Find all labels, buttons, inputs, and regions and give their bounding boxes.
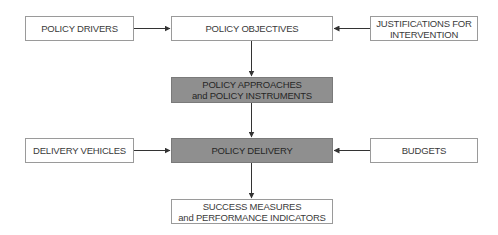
node-label: POLICY APPROACHES and POLICY INSTRUMENTS [192,79,312,101]
node-policy-approaches: POLICY APPROACHES and POLICY INSTRUMENTS [171,77,333,103]
node-justifications-for-intervention: JUSTIFICATIONS FOR INTERVENTION [370,16,478,41]
node-policy-drivers: POLICY DRIVERS [25,16,134,41]
node-policy-objectives: POLICY OBJECTIVES [171,16,333,41]
node-label: POLICY DRIVERS [41,23,118,34]
node-label: POLICY DELIVERY [211,145,292,156]
node-label: BUDGETS [402,145,447,156]
node-label: SUCCESS MEASURES and PERFORMANCE INDICAT… [178,201,326,223]
node-budgets: BUDGETS [370,138,478,163]
node-label: POLICY OBJECTIVES [205,23,298,34]
node-label: JUSTIFICATIONS FOR INTERVENTION [376,18,471,40]
node-success-measures: SUCCESS MEASURES and PERFORMANCE INDICAT… [171,199,333,224]
node-delivery-vehicles: DELIVERY VEHICLES [25,138,134,163]
node-policy-delivery: POLICY DELIVERY [171,138,333,163]
node-label: DELIVERY VEHICLES [33,145,126,156]
